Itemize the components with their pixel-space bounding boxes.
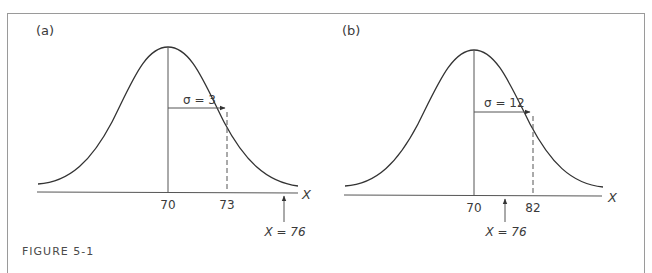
x-axis-b	[344, 195, 602, 196]
tick-label-sd-b: 82	[525, 201, 540, 215]
figure-caption: FIGURE 5-1	[22, 245, 94, 258]
panel-a-label: (a)	[36, 23, 54, 38]
panel-b: (b) X σ = 12 70 82 X = 76	[342, 23, 618, 239]
tick-label-sd-a: 73	[219, 198, 234, 212]
tick-label-mean-a: 70	[160, 198, 175, 212]
x-axis-label-a: X	[301, 187, 312, 202]
sigma-label-b: σ = 12	[484, 96, 525, 110]
panel-b-label: (b)	[342, 23, 360, 38]
sigma-label-a: σ = 3	[183, 93, 216, 107]
x-axis-a	[37, 192, 298, 193]
x-axis-label-b: X	[607, 190, 618, 205]
marker-label-b: X = 76	[484, 225, 527, 239]
tick-label-mean-b: 70	[466, 201, 481, 215]
panel-a: (a) X σ = 3 70 73 X = 76	[36, 23, 312, 239]
marker-label-a: X = 76	[263, 225, 306, 239]
